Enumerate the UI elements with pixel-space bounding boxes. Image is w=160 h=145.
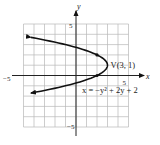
chart: x y −5 5 −5 5 V(3, 1) x = −y² + 2y + 2 <box>0 0 160 145</box>
equation-label: x = −y² + 2y + 2 <box>82 85 138 95</box>
vertex-label: V(3, 1) <box>111 60 136 70</box>
tick-label-y-min: −5 <box>67 123 75 131</box>
tick-label-y-max: 5 <box>69 22 73 30</box>
y-axis-label: y <box>76 2 81 11</box>
x-axis-label: x <box>145 72 150 81</box>
data-point <box>95 53 98 56</box>
tick-label-x-min: −5 <box>3 75 11 83</box>
data-point <box>95 74 98 77</box>
